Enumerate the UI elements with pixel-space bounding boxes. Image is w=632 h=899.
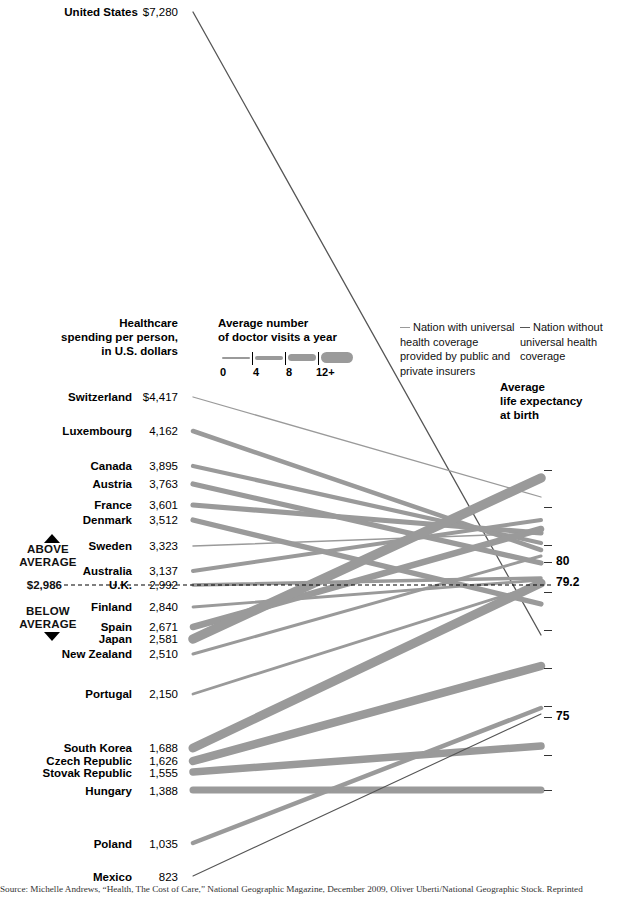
country-name: Portugal — [85, 688, 132, 700]
country-spending: 2,510 — [132, 648, 178, 660]
country-name: Finland — [91, 601, 132, 613]
legend-non-universal-coverage: Nation without universal health coverage — [520, 320, 632, 364]
country-name: Japan — [99, 633, 132, 645]
visits-ticklabel-8: 8 — [286, 366, 292, 378]
visits-tick-4 — [285, 352, 286, 365]
average-spending-value: $2,986 — [0, 579, 62, 591]
visits-tick-8 — [318, 352, 319, 365]
visits-ticklabel-0: 0 — [220, 366, 226, 378]
above-average-arrow-icon — [44, 534, 60, 543]
right-axis-tick — [544, 755, 552, 756]
country-spending: 1,388 — [132, 785, 178, 797]
slopegraph-chart: United States $7,280 Switzerland $4,417 … — [0, 0, 632, 899]
country-row-portugal[interactable]: Portugal 2,150 — [0, 687, 178, 701]
slope-line[interactable] — [193, 484, 541, 563]
country-spending: $4,417 — [132, 391, 178, 403]
below-average-arrow-icon — [44, 632, 60, 641]
country-spending: 4,162 — [132, 425, 178, 437]
country-row-austria[interactable]: Austria 3,763 — [0, 477, 178, 491]
country-row-hungary[interactable]: Hungary 1,388 — [0, 784, 178, 798]
country-name: Switzerland — [68, 391, 132, 403]
right-axis-tick — [544, 562, 552, 563]
country-row-switzerland[interactable]: Switzerland $4,417 — [0, 390, 178, 404]
country-row-slovak-republic[interactable]: Stovak Republic 1,555 — [0, 766, 178, 780]
right-axis-label-75: 75 — [556, 709, 569, 723]
country-spending: 2,992 — [132, 579, 178, 591]
visits-swatch-4 — [255, 356, 283, 360]
legend-universal-coverage: Nation with universal health coverage pr… — [400, 320, 520, 378]
country-row-united-states[interactable]: United States $7,280 — [0, 5, 178, 19]
country-row-south-korea[interactable]: South Korea 1,688 — [0, 741, 178, 755]
visits-legend-ticklabels: 0 4 8 12+ — [212, 366, 382, 380]
country-row-mexico[interactable]: Mexico 823 — [0, 870, 178, 884]
right-axis-tick — [544, 790, 552, 791]
slope-line[interactable] — [193, 583, 541, 748]
slope-line[interactable] — [193, 708, 541, 843]
country-spending: 2,150 — [132, 688, 178, 700]
visits-legend-title: Average numberof doctor visits a year — [218, 316, 398, 344]
slope-line[interactable] — [193, 714, 541, 876]
country-row-france[interactable]: France 3,601 — [0, 498, 178, 512]
right-axis-label-80: 80 — [556, 554, 569, 568]
country-spending: 2,581 — [132, 633, 178, 645]
right-axis-tick — [544, 706, 552, 707]
country-name: U.K. — [109, 579, 132, 591]
country-row-denmark[interactable]: Denmark 3,512 — [0, 513, 178, 527]
right-axis-label-79-2: 79.2 — [556, 575, 579, 589]
legend-universal-label: Nation with universal health coverage pr… — [400, 321, 515, 377]
right-axis-tick — [544, 545, 552, 546]
country-name: Austria — [92, 478, 132, 490]
slope-line[interactable] — [193, 478, 541, 639]
country-name: Canada — [90, 460, 132, 472]
country-spending: 3,512 — [132, 514, 178, 526]
country-name: Poland — [94, 838, 132, 850]
visits-tick-0 — [252, 352, 253, 365]
country-spending: 3,323 — [132, 540, 178, 552]
spending-axis-title: Healthcarespending per person,in U.S. do… — [0, 316, 178, 358]
right-axis-tick — [544, 507, 552, 508]
legend-non-universal-label: Nation without universal health coverage — [520, 321, 603, 362]
country-spending: 3,895 — [132, 460, 178, 472]
country-row-luxembourg[interactable]: Luxembourg 4,162 — [0, 424, 178, 438]
country-spending: $7,280 — [138, 6, 178, 18]
country-name: Luxembourg — [62, 425, 132, 437]
country-spending: 1,688 — [132, 742, 178, 754]
right-axis-tick — [544, 668, 552, 669]
country-spending: 3,763 — [132, 478, 178, 490]
below-average-label: BELOWAVERAGE — [0, 605, 96, 631]
country-spending: 1,555 — [132, 767, 178, 779]
legend-universal-swatch — [400, 327, 410, 328]
visits-ticklabel-12plus: 12+ — [316, 366, 335, 378]
right-axis-tick — [544, 717, 552, 718]
country-spending: 3,137 — [132, 565, 178, 577]
country-spending: 2,840 — [132, 601, 178, 613]
source-note: Source: Michelle Andrews, “Health, The C… — [0, 884, 632, 894]
visits-legend-swatches — [222, 350, 362, 366]
country-row-new-zealand[interactable]: New Zealand 2,510 — [0, 647, 178, 661]
country-name: Hungary — [85, 785, 132, 797]
country-name: New Zealand — [62, 648, 132, 660]
visits-swatch-8 — [288, 354, 316, 361]
country-row-canada[interactable]: Canada 3,895 — [0, 459, 178, 473]
country-row-poland[interactable]: Poland 1,035 — [0, 837, 178, 851]
country-spending: 1,035 — [132, 838, 178, 850]
country-name: Denmark — [83, 514, 132, 526]
country-spending: 823 — [132, 871, 178, 883]
right-axis-tick — [544, 630, 552, 631]
visits-swatch-0 — [222, 357, 250, 359]
country-name: Mexico — [93, 871, 132, 883]
right-axis-tick — [544, 470, 552, 471]
right-axis-tick — [544, 592, 552, 593]
country-name: South Korea — [64, 742, 132, 754]
country-name: United States — [64, 6, 138, 18]
life-expectancy-axis-title: Averagelife expectancyat birth — [500, 380, 630, 422]
country-name: France — [94, 499, 132, 511]
country-spending: 3,601 — [132, 499, 178, 511]
above-average-label: ABOVEAVERAGE — [0, 543, 96, 569]
country-name: Stovak Republic — [43, 767, 132, 779]
visits-ticklabel-4: 4 — [253, 366, 259, 378]
legend-non-universal-swatch — [520, 327, 530, 328]
country-row-japan[interactable]: Japan 2,581 — [0, 632, 178, 646]
visits-swatch-12plus — [321, 352, 353, 363]
